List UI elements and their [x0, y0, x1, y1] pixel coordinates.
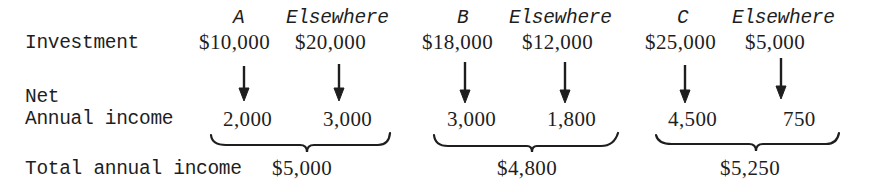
down-arrow-icon: [460, 62, 470, 103]
down-arrow-icon: [680, 65, 690, 103]
brace-a-icon: [211, 133, 390, 152]
brace-c-icon: [656, 133, 839, 151]
down-arrow-icon: [239, 66, 249, 101]
down-arrow-icon: [334, 64, 344, 101]
brace-b-icon: [434, 133, 618, 152]
down-arrow-icon: [776, 58, 786, 99]
diagram-graphics: [0, 0, 870, 195]
down-arrow-icon: [560, 62, 570, 103]
